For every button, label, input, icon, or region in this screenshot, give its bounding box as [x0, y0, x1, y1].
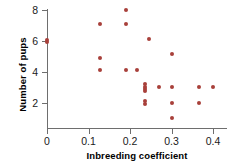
x-tick-mark: [47, 129, 48, 134]
x-tick-mark: [172, 129, 173, 134]
x-tick-mark: [130, 129, 131, 134]
x-tick-mark: [213, 129, 214, 134]
scatter-plot-figure: 2468 00.10.20.30.4 Number of pups Inbree…: [0, 0, 234, 166]
x-axis-line: [47, 128, 227, 129]
x-axis-title: Inbreeding coefficient: [47, 150, 227, 161]
x-tick-label: 0.4: [206, 136, 221, 147]
data-point: [197, 101, 201, 105]
data-point: [157, 85, 161, 89]
y-tick-mark: [42, 72, 47, 73]
x-tick-label: 0.2: [123, 136, 138, 147]
y-tick-label: 4: [32, 67, 38, 78]
x-tick-label: 0.1: [81, 136, 96, 147]
x-tick-label: 0.3: [164, 136, 179, 147]
y-axis-title: Number of pups: [17, 15, 28, 135]
y-tick-label: 2: [32, 98, 38, 109]
y-axis-line: [47, 9, 48, 129]
data-point: [124, 68, 128, 72]
data-point: [170, 52, 174, 56]
data-point: [143, 89, 147, 93]
data-point: [98, 56, 102, 60]
y-tick-mark: [42, 103, 47, 104]
data-point: [211, 85, 215, 89]
data-point: [170, 85, 174, 89]
y-tick-label: 6: [32, 36, 38, 47]
data-point: [98, 68, 102, 72]
data-point: [143, 102, 147, 106]
data-point: [147, 37, 151, 41]
data-point: [98, 22, 102, 26]
data-point: [135, 68, 139, 72]
data-point: [124, 8, 128, 12]
data-point: [170, 101, 174, 105]
data-point: [45, 40, 49, 44]
x-tick-mark: [89, 129, 90, 134]
plot-area: 2468 00.10.20.30.4 Number of pups Inbree…: [0, 0, 234, 166]
data-point: [170, 116, 174, 120]
data-point: [124, 22, 128, 26]
x-tick-label: 0: [44, 136, 50, 147]
data-point: [197, 85, 201, 89]
y-tick-label: 8: [32, 5, 38, 16]
y-tick-mark: [42, 10, 47, 11]
